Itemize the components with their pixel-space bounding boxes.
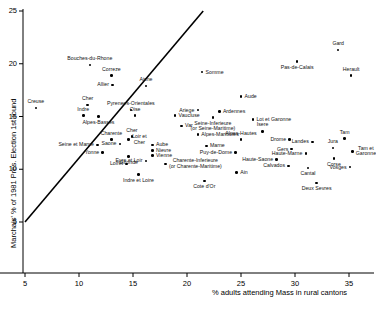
data-point — [205, 145, 208, 148]
data-point — [111, 84, 114, 87]
data-point — [212, 116, 215, 119]
data-point-label: Ardennes — [223, 109, 245, 115]
data-point — [89, 64, 92, 67]
data-point-label: Jura — [328, 139, 338, 145]
y-axis-tick-label: 25 — [3, 6, 17, 15]
x-axis-tick-label: 15 — [123, 279, 143, 288]
data-point — [127, 155, 130, 158]
data-point — [125, 163, 128, 166]
data-point-label: Allier — [97, 82, 109, 88]
data-point — [86, 104, 89, 107]
data-point-label: Somme — [206, 70, 224, 76]
data-point-label: Alpes-Basses — [82, 120, 114, 126]
data-point-label: Loir et Cher — [132, 134, 147, 145]
data-point — [151, 144, 154, 147]
x-axis-tick-label: 30 — [285, 279, 305, 288]
y-axis-title: Marchais' % of 1981 Pres. Election 1st r… — [9, 99, 18, 248]
data-point-label: Herault — [343, 67, 360, 73]
data-point-label: Alpes-Hautes — [225, 131, 256, 137]
data-point — [351, 150, 354, 153]
data-point-label: Ain — [240, 170, 248, 176]
data-point — [275, 158, 278, 161]
data-point-label: Vaucluse — [179, 113, 200, 119]
data-point — [110, 138, 113, 141]
data-point-label: Saone — [101, 141, 116, 147]
data-point — [235, 171, 238, 174]
data-point-label: Loiret — [110, 161, 123, 167]
data-point — [333, 157, 336, 160]
data-point-label: Puy-de-Dome — [200, 150, 232, 156]
data-point-label: Aisne — [139, 77, 152, 83]
x-axis-tick-label: 35 — [339, 279, 359, 288]
data-point — [110, 74, 113, 77]
x-axis-title: % adults attending Mass in rural cantons — [212, 288, 347, 297]
data-point-label: Aude — [245, 94, 257, 100]
data-point-label: Cantal — [300, 171, 315, 177]
data-point — [164, 163, 167, 166]
data-point-label: Indre — [77, 107, 89, 113]
data-point-label: Gard — [332, 41, 344, 47]
data-point — [218, 110, 221, 113]
data-point — [315, 182, 318, 185]
data-point — [151, 154, 154, 157]
data-point-label: Calvados — [263, 163, 285, 169]
data-point-label: Var — [185, 123, 193, 129]
data-point — [234, 151, 237, 154]
data-point-label: Ariege — [179, 108, 194, 114]
data-point — [197, 133, 200, 136]
data-point — [127, 138, 130, 141]
x-axis-tick-label: 20 — [177, 279, 197, 288]
data-point-label: Landes — [292, 139, 309, 145]
data-point-label: Haute-Marne — [272, 151, 303, 157]
x-axis-tick-label: 25 — [231, 279, 251, 288]
data-point — [96, 144, 99, 147]
data-point-label: Cher — [82, 96, 93, 102]
data-point — [252, 118, 255, 121]
data-point — [305, 152, 308, 155]
x-axis-tick-label: 5 — [15, 279, 35, 288]
data-point — [261, 130, 264, 133]
data-point-label: Cote d'Or — [193, 184, 215, 190]
data-point — [82, 114, 85, 117]
data-point-label: Bouches-du-Rhone — [67, 56, 112, 62]
data-point-label: Charente-Inferieure (or Charente-Maritim… — [169, 158, 222, 169]
data-point-label: Charente — [101, 131, 123, 137]
data-point-label: Pas-de-Calais — [281, 65, 314, 71]
data-point-label: Cher — [126, 128, 137, 134]
data-point-label: Indre et Loire — [123, 178, 154, 184]
data-point-label: Vosges — [329, 165, 346, 171]
data-point — [311, 141, 314, 144]
data-point-label: Yonne — [85, 150, 100, 156]
data-point — [131, 135, 134, 138]
data-point — [137, 173, 140, 176]
data-point — [203, 180, 206, 183]
data-point-label: Seine et Marne — [58, 142, 93, 148]
data-point-label: Tam et Garonne — [356, 146, 376, 157]
data-point — [288, 138, 291, 141]
data-point — [343, 137, 346, 140]
data-point-label: Deux Sevres — [302, 186, 332, 192]
data-point — [97, 115, 100, 118]
data-point-label: Tam — [340, 130, 350, 136]
x-axis-tick-label: 10 — [69, 279, 89, 288]
y-axis-tick-label: 20 — [3, 59, 17, 68]
data-point-label: Creuse — [27, 99, 44, 105]
data-point-label: Correze — [102, 67, 121, 73]
data-point — [101, 151, 104, 154]
data-point-label: Isere — [257, 122, 269, 128]
data-point — [151, 149, 154, 152]
data-point-label: Drome — [270, 137, 286, 143]
